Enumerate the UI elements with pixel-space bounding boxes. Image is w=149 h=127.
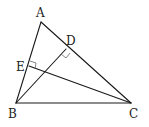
- segment-ce: [29, 66, 131, 103]
- label-e: E: [16, 60, 25, 74]
- label-d: D: [66, 34, 76, 48]
- segment-bd: [16, 49, 66, 103]
- label-a: A: [35, 6, 45, 20]
- label-c: C: [129, 107, 138, 121]
- segment-ac: [41, 22, 131, 103]
- triangle-diagram: A D E B C: [0, 0, 149, 127]
- label-b: B: [8, 107, 17, 121]
